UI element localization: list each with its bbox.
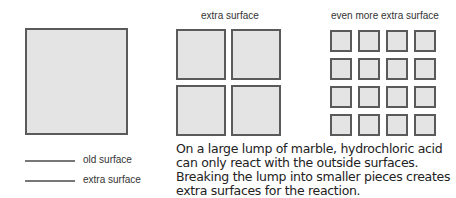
piece-4x4 — [330, 114, 352, 136]
piece-4x4 — [414, 114, 436, 136]
piece-4x4 — [386, 30, 408, 52]
panel-label-extra-surface: extra surface — [201, 10, 259, 21]
caption-line: can only react with the outside surfaces… — [176, 156, 456, 170]
panel-label-even-more-extra-surface: even more extra surface — [331, 10, 439, 21]
piece-4x4 — [414, 58, 436, 80]
piece-4x4 — [386, 114, 408, 136]
piece-4x4 — [358, 30, 380, 52]
caption-line: extra surfaces for the reaction. — [176, 184, 456, 198]
piece-2x2 — [231, 85, 281, 136]
legend-label-extra-surface: extra surface — [83, 174, 141, 185]
legend-line-extra-surface — [25, 180, 75, 182]
piece-4x4 — [358, 114, 380, 136]
legend-label-old-surface: old surface — [83, 154, 132, 165]
piece-4x4 — [358, 58, 380, 80]
caption-line: On a large lump of marble, hydrochloric … — [176, 142, 456, 156]
piece-2x2 — [176, 85, 226, 136]
piece-4x4 — [414, 30, 436, 52]
legend-line-old-surface — [25, 160, 75, 162]
piece-4x4 — [414, 86, 436, 108]
piece-2x2 — [176, 29, 226, 80]
caption: On a large lump of marble, hydrochloric … — [176, 142, 456, 198]
caption-line: Breaking the lump into smaller pieces cr… — [176, 170, 456, 184]
piece-4x4 — [358, 86, 380, 108]
piece-4x4 — [330, 86, 352, 108]
large-lump — [25, 28, 128, 135]
piece-4x4 — [386, 86, 408, 108]
piece-2x2 — [231, 29, 281, 80]
piece-4x4 — [330, 30, 352, 52]
piece-4x4 — [386, 58, 408, 80]
piece-4x4 — [330, 58, 352, 80]
